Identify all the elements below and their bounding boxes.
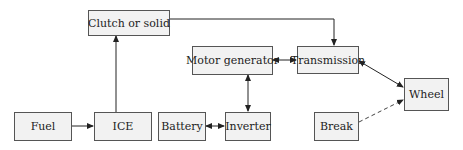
hybrid-powertrain-diagram: Clutch or solid Motor generator Transmis… [0, 0, 463, 150]
edge-break-wheel [359, 100, 403, 122]
node-clutch: Clutch or solid [88, 10, 170, 36]
node-transmission: Transmission [297, 46, 359, 74]
node-fuel: Fuel [14, 112, 72, 141]
node-label: Battery [161, 120, 202, 133]
edge-transmission-wheel [359, 61, 403, 87]
node-label: ICE [113, 120, 134, 133]
node-label: Clutch or solid [88, 17, 170, 30]
node-label: Wheel [409, 88, 444, 101]
node-ice: ICE [94, 112, 152, 141]
node-break: Break [314, 112, 359, 141]
node-label: Fuel [31, 120, 56, 133]
node-label: Motor generator [186, 54, 279, 67]
node-label: Transmission [291, 54, 365, 67]
node-wheel: Wheel [404, 78, 449, 111]
node-motor-generator: Motor generator [192, 46, 273, 75]
node-label: Inverter [225, 120, 271, 133]
edge-clutch-transmission [169, 19, 334, 45]
node-label: Break [320, 120, 353, 133]
node-battery: Battery [158, 112, 206, 141]
node-inverter: Inverter [225, 112, 271, 141]
